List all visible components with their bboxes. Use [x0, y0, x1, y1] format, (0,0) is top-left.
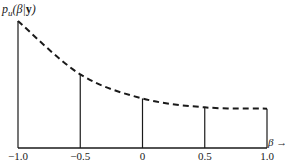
density-chart: [0, 0, 285, 164]
density-curve: [18, 21, 267, 109]
x-tick-label: −1.0: [8, 150, 28, 162]
y-axis-label: pu(β|y): [2, 2, 36, 18]
x-axis-label: β →: [268, 136, 285, 148]
x-tick-label: 0: [140, 150, 146, 162]
ordinate-lines: [18, 21, 267, 148]
x-tick-label: 0.5: [198, 150, 212, 162]
x-tick-label: 1.0: [260, 150, 274, 162]
x-tick-label: −0.5: [70, 150, 90, 162]
